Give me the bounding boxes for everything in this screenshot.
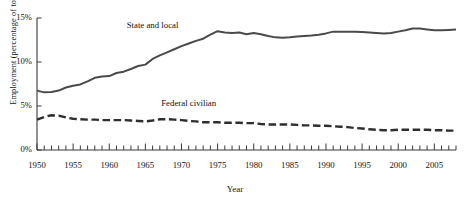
series-annotation-federal-civilian: Federal civilian — [161, 98, 216, 108]
x-axis-tick-label: 1980 — [245, 160, 263, 170]
x-axis-tick-label: 1975 — [209, 160, 227, 170]
x-axis-tick-label: 2000 — [389, 160, 407, 170]
series-line-state-and-local — [37, 29, 456, 93]
x-axis-tick-label: 1990 — [317, 160, 335, 170]
series-group — [37, 29, 456, 131]
x-axis-tick-label: 1955 — [64, 160, 82, 170]
series-annotation-state-and-local: State and local — [127, 20, 179, 30]
x-axis-tick-label: 1950 — [28, 160, 46, 170]
x-axis-tick-label: 1985 — [281, 160, 299, 170]
series-line-federal-civilian — [37, 115, 456, 130]
x-axis-tick-label: 1995 — [353, 160, 371, 170]
x-axis-tick-label: 1965 — [137, 160, 155, 170]
plot-area — [0, 0, 470, 204]
x-axis-tick-label: 2005 — [426, 160, 444, 170]
chart-root: Employment (percentage of total) 0%5%10%… — [0, 0, 470, 204]
x-axis-tick-label: 1970 — [173, 160, 191, 170]
x-axis-tick-label: 1960 — [100, 160, 118, 170]
